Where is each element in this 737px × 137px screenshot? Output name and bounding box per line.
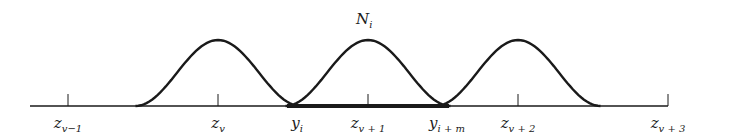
knot-label: zv + 3 xyxy=(650,114,686,134)
basis-function-label: Ni xyxy=(355,10,372,30)
basis-function-diagram: zv−1zvzv + 1zv + 2zv + 3yiyi + m Ni xyxy=(0,0,737,137)
knot-label: zv + 2 xyxy=(500,114,536,134)
point-label: yi xyxy=(290,114,303,134)
knot-label: zv + 1 xyxy=(350,114,386,134)
point-label: yi + m xyxy=(428,114,465,134)
knot-label: zv−1 xyxy=(53,114,82,134)
knot-label: zv xyxy=(210,114,225,134)
